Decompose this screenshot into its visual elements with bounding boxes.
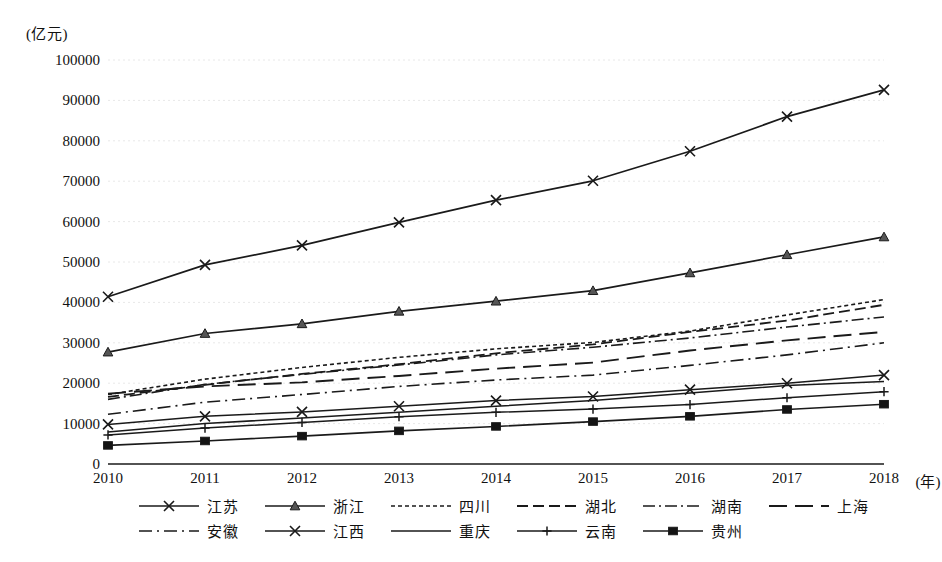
series-9 xyxy=(103,387,888,439)
y-axis-tick-label: 20000 xyxy=(63,375,101,392)
legend-label: 安徽 xyxy=(207,520,238,541)
y-axis-tick-label: 90000 xyxy=(63,92,101,109)
legend-swatch-icon xyxy=(264,499,326,513)
x-axis-tick-label: 2015 xyxy=(578,470,608,487)
legend-item-湖南[interactable]: 湖南 xyxy=(642,495,742,516)
legend-item-浙江[interactable]: 浙江 xyxy=(264,495,364,516)
data-point-marker xyxy=(783,406,792,413)
data-point-marker xyxy=(588,404,597,413)
data-point-marker xyxy=(491,408,500,417)
x-axis-tick-labels: 201020112012201320142015201620172018(年) xyxy=(108,470,884,492)
data-point-marker xyxy=(542,526,551,535)
series-0 xyxy=(103,85,889,302)
x-axis-tick-label: 2010 xyxy=(93,470,123,487)
legend-label: 湖北 xyxy=(585,495,616,516)
legend-swatch-icon xyxy=(516,499,578,513)
series-line xyxy=(108,90,884,297)
data-point-marker xyxy=(782,393,791,402)
data-point-marker xyxy=(297,418,306,427)
data-point-marker xyxy=(879,232,889,241)
data-point-marker xyxy=(879,387,888,396)
data-point-marker xyxy=(200,423,209,432)
legend-item-江西[interactable]: 江西 xyxy=(264,520,364,541)
data-point-marker xyxy=(298,432,307,439)
x-axis-tick-label: 2012 xyxy=(287,470,317,487)
legend-swatch-icon xyxy=(642,524,704,538)
data-point-marker xyxy=(201,437,210,444)
plot-area xyxy=(108,60,884,464)
legend-swatch-icon xyxy=(768,499,830,513)
legend-item-安徽[interactable]: 安徽 xyxy=(138,520,238,541)
data-point-marker xyxy=(104,442,113,449)
legend-swatch-icon xyxy=(138,499,200,513)
legend-swatch-icon xyxy=(138,524,200,538)
data-point-marker xyxy=(685,146,695,156)
series-2 xyxy=(108,300,884,395)
y-axis-tick-label: 40000 xyxy=(63,294,101,311)
legend-label: 江西 xyxy=(333,520,364,541)
data-point-marker xyxy=(685,400,694,409)
legend-item-云南[interactable]: 云南 xyxy=(516,520,616,541)
y-axis-tick-label: 80000 xyxy=(63,132,101,149)
y-axis-tick-label: 70000 xyxy=(63,173,101,190)
legend-row: 安徽江西重庆云南贵州 xyxy=(108,518,898,543)
data-point-marker xyxy=(669,527,678,534)
legend-label: 云南 xyxy=(585,520,616,541)
y-axis-tick-label: 60000 xyxy=(63,213,101,230)
data-point-marker xyxy=(103,292,113,302)
legend-item-四川[interactable]: 四川 xyxy=(390,495,490,516)
legend-label: 湖南 xyxy=(711,495,742,516)
data-point-marker xyxy=(394,412,403,421)
data-point-marker xyxy=(782,112,792,122)
series-1 xyxy=(103,232,889,356)
legend-swatch-icon xyxy=(642,499,704,513)
y-axis-tick-label: 10000 xyxy=(63,415,101,432)
y-axis-tick-label: 50000 xyxy=(63,254,101,271)
legend-label: 四川 xyxy=(459,495,490,516)
legend-label: 上海 xyxy=(837,495,868,516)
legend-swatch-icon xyxy=(390,524,452,538)
x-axis-tick-label: 2013 xyxy=(384,470,414,487)
y-axis-tick-label: 100000 xyxy=(55,52,100,69)
x-axis-tick-label: 2016 xyxy=(675,470,705,487)
x-axis-tick-label: 2018 xyxy=(869,470,899,487)
legend-swatch-icon xyxy=(516,524,578,538)
data-point-marker xyxy=(879,85,889,95)
plot-svg xyxy=(108,60,884,464)
legend-swatch-icon xyxy=(264,524,326,538)
data-point-marker xyxy=(686,413,695,420)
x-axis-tick-label: 2011 xyxy=(190,470,219,487)
legend-item-江苏[interactable]: 江苏 xyxy=(138,495,238,516)
chart-legend: 江苏浙江四川湖北湖南上海安徽江西重庆云南贵州 xyxy=(108,493,898,543)
y-axis-unit-label: (亿元) xyxy=(26,22,68,43)
data-point-marker xyxy=(395,427,404,434)
legend-label: 浙江 xyxy=(333,495,364,516)
series-line xyxy=(108,300,884,395)
x-axis-tick-label: 2014 xyxy=(481,470,511,487)
series-7 xyxy=(103,370,889,429)
x-axis-unit-label: (年) xyxy=(916,470,941,491)
series-line xyxy=(108,237,884,352)
data-point-marker xyxy=(880,400,889,407)
data-point-marker xyxy=(589,418,598,425)
legend-item-湖北[interactable]: 湖北 xyxy=(516,495,616,516)
x-axis-tick-label: 2017 xyxy=(772,470,802,487)
data-point-marker xyxy=(492,423,501,430)
legend-item-上海[interactable]: 上海 xyxy=(768,495,868,516)
legend-swatch-icon xyxy=(390,499,452,513)
y-axis-tick-label: 30000 xyxy=(63,334,101,351)
legend-item-重庆[interactable]: 重庆 xyxy=(390,520,490,541)
legend-item-贵州[interactable]: 贵州 xyxy=(642,520,742,541)
legend-label: 江苏 xyxy=(207,495,238,516)
legend-row: 江苏浙江四川湖北湖南上海 xyxy=(108,493,898,518)
y-axis-tick-labels: 1000009000080000700006000050000400003000… xyxy=(0,60,100,464)
legend-label: 贵州 xyxy=(711,520,742,541)
chart-canvas: (亿元) 10000090000800007000060000500004000… xyxy=(0,0,942,562)
legend-label: 重庆 xyxy=(459,520,490,541)
